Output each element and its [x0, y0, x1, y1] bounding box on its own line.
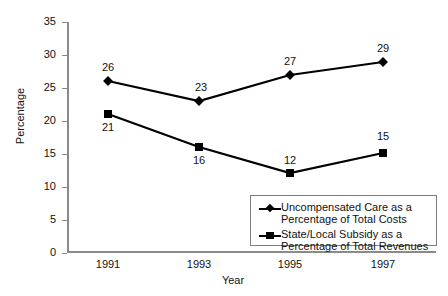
- legend-entry-state-local-subsidy: State/Local Subsidy as a Percentage of T…: [259, 228, 430, 252]
- data-label-subsidy-1995: 12: [284, 155, 296, 166]
- legend-label-line1: State/Local Subsidy as a: [281, 228, 402, 240]
- x-axis-title: Year: [0, 274, 448, 286]
- data-label-care-1991: 26: [102, 62, 114, 73]
- x-axis-title-text: Year: [222, 274, 244, 286]
- legend-label-state-local-subsidy: State/Local Subsidy as a Percentage of T…: [281, 228, 428, 252]
- legend-square-marker-icon: [259, 229, 281, 242]
- data-label-subsidy-1993: 16: [193, 155, 205, 166]
- data-label-subsidy-1997: 15: [377, 131, 389, 142]
- series-markers-uncompensated-care: [103, 57, 388, 106]
- data-label-subsidy-1991: 21: [102, 122, 114, 133]
- series-line-uncompensated-care: [108, 62, 383, 101]
- data-label-care-1997: 29: [377, 43, 389, 54]
- x-tick-label-1995: 1995: [278, 258, 302, 270]
- chart-legend: Uncompensated Care as a Percentage of To…: [250, 195, 437, 246]
- legend-label-line1: Uncompensated Care as a: [281, 201, 412, 213]
- legend-label-uncompensated-care: Uncompensated Care as a Percentage of To…: [281, 201, 412, 225]
- line-chart: 0 5 10 15 20 25 30 35: [0, 0, 448, 296]
- legend-diamond-marker-icon: [259, 202, 281, 215]
- y-axis-title: Percentage: [14, 71, 26, 161]
- x-tick-label-1991: 1991: [96, 258, 120, 270]
- legend-label-line2: Percentage of Total Costs: [281, 213, 407, 225]
- data-label-care-1995: 27: [284, 56, 296, 67]
- legend-label-line2: Percentage of Total Revenues: [281, 240, 428, 252]
- x-tick-label-1997: 1997: [371, 258, 395, 270]
- data-label-care-1993: 23: [195, 82, 207, 93]
- legend-entry-uncompensated-care: Uncompensated Care as a Percentage of To…: [259, 201, 430, 225]
- x-tick-label-1993: 1993: [187, 258, 211, 270]
- series-markers-state-local-subsidy: [104, 110, 387, 177]
- series-line-state-local-subsidy: [108, 114, 383, 173]
